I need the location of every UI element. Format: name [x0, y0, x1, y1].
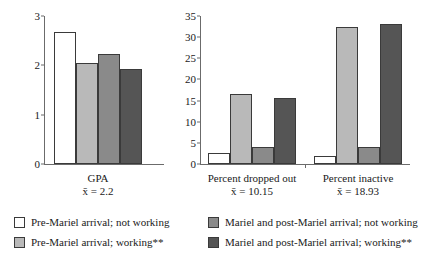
- panel-percent: 05101520253035Percent dropped outx̄ = 10…: [164, 8, 414, 208]
- chart-legend: Pre-Mariel arrival; not workingPre-Marie…: [14, 216, 414, 260]
- y-axis-tick-label: 5: [174, 137, 196, 148]
- y-axis-tick-mark: [197, 16, 200, 17]
- y-axis-tick-mark: [197, 79, 200, 80]
- bar: [358, 147, 380, 164]
- y-axis-tick-mark: [197, 100, 200, 101]
- x-axis-group-label: Percent inactivex̄ = 18.93: [288, 172, 421, 198]
- y-axis-tick-mark: [197, 121, 200, 122]
- x-axis-group-name: Percent dropped out: [208, 172, 297, 184]
- legend-color-swatch: [14, 217, 25, 228]
- panel-gpa: 0123GPAx̄ = 2.2: [14, 8, 164, 208]
- y-axis-tick-label: 25: [174, 53, 196, 64]
- bar: [54, 32, 76, 164]
- bar: [230, 94, 252, 164]
- y-axis-tick-label: 0: [174, 159, 196, 170]
- legend-color-swatch: [208, 237, 219, 248]
- y-axis-tick-mark: [41, 16, 44, 17]
- y-axis-line: [200, 16, 201, 164]
- y-axis-tick-label: 30: [174, 32, 196, 43]
- legend-item: Pre-Mariel arrival; not working: [14, 216, 169, 228]
- legend-item-label: Mariel and post-Mariel arrival; working*…: [225, 236, 412, 248]
- y-axis-tick-label: 3: [18, 11, 40, 22]
- x-axis-group-name: GPA: [88, 172, 109, 184]
- bar: [120, 69, 142, 164]
- x-axis-line: [44, 164, 164, 165]
- legend-item-label: Pre-Mariel arrival; working**: [31, 236, 164, 248]
- y-axis-tick-label: 0: [18, 159, 40, 170]
- x-axis-group-label: GPAx̄ = 2.2: [28, 172, 168, 198]
- x-axis-group-name: Percent inactive: [323, 172, 394, 184]
- x-axis-group-mean: x̄ = 18.93: [288, 185, 421, 198]
- y-axis-tick-mark: [197, 164, 200, 165]
- bar: [336, 27, 358, 164]
- legend-color-swatch: [208, 217, 219, 228]
- legend-item: Mariel and post-Mariel arrival; not work…: [208, 216, 418, 228]
- y-axis-tick-mark: [41, 164, 44, 165]
- y-axis-tick-mark: [197, 58, 200, 59]
- legend-color-swatch: [14, 237, 25, 248]
- x-axis-group-mean: x̄ = 2.2: [28, 185, 168, 198]
- y-axis-tick-label: 1: [18, 109, 40, 120]
- bar: [208, 153, 230, 164]
- y-axis-tick-label: 20: [174, 74, 196, 85]
- bar: [274, 98, 296, 164]
- y-axis-tick-label: 35: [174, 11, 196, 22]
- legend-item-label: Mariel and post-Mariel arrival; not work…: [225, 216, 418, 228]
- legend-item-label: Pre-Mariel arrival; not working: [31, 216, 169, 228]
- legend-item: Mariel and post-Mariel arrival; working*…: [208, 236, 412, 248]
- y-axis-tick-label: 2: [18, 60, 40, 71]
- y-axis-tick-mark: [41, 114, 44, 115]
- y-axis-tick-mark: [197, 142, 200, 143]
- y-axis-tick-label: 15: [174, 95, 196, 106]
- legend-item: Pre-Mariel arrival; working**: [14, 236, 164, 248]
- y-axis-line: [44, 16, 45, 164]
- x-axis-tick-mark: [305, 165, 306, 168]
- bar: [76, 63, 98, 164]
- y-axis-tick-mark: [197, 37, 200, 38]
- chart-figure: 0123GPAx̄ = 2.2 05101520253035Percent dr…: [0, 0, 421, 271]
- bar: [314, 156, 336, 164]
- bar: [98, 54, 120, 164]
- bar: [252, 147, 274, 164]
- y-axis-tick-label: 10: [174, 116, 196, 127]
- bar: [380, 24, 402, 164]
- y-axis-tick-mark: [41, 65, 44, 66]
